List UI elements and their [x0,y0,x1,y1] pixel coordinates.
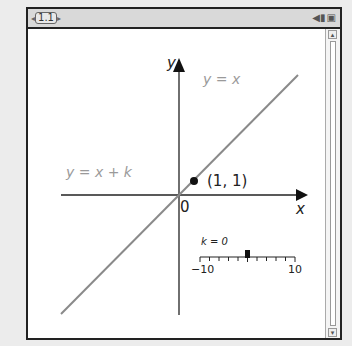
origin-label: 0 [180,198,190,216]
scroll-track[interactable] [330,41,336,326]
page-tab[interactable]: ◂ 1.1 ▸ [31,12,61,24]
page-tab-label[interactable]: 1.1 [35,12,57,24]
graph-svg[interactable]: y x 0 y = x y = x + k (1, 1) k = 0 [28,29,328,340]
slider-max-label: 10 [288,263,302,276]
doc-icon: ▣ [327,12,336,23]
slider-thumb[interactable] [245,250,250,258]
point-label: (1, 1) [207,172,247,190]
vertical-scrollbar[interactable]: ▴ ▾ [325,29,340,338]
scroll-down-icon[interactable]: ▾ [328,328,337,337]
slider-label: k = 0 [201,236,228,247]
titlebar: ◂ 1.1 ▸ ◀▮ ▣ [28,9,340,29]
point-1-1[interactable] [190,177,198,185]
x-axis-label: x [295,200,305,218]
graph-canvas[interactable]: y x 0 y = x y = x + k (1, 1) k = 0 [28,29,326,338]
status-icons: ◀▮ ▣ [312,12,336,23]
app-window: ◂ 1.1 ▸ ◀▮ ▣ y x 0 y = x y = x + k (1, 1 [26,7,342,340]
battery-icon: ◀▮ [312,12,325,23]
scroll-up-icon[interactable]: ▴ [328,30,337,39]
next-page-icon[interactable]: ▸ [57,14,61,23]
y-axis-label: y [166,54,177,72]
k-slider[interactable]: k = 0 −10 10 [191,236,302,276]
slider-min-label: −10 [191,263,214,276]
line-label: y = x + k [65,164,133,180]
line-ref-label: y = x [202,71,241,87]
